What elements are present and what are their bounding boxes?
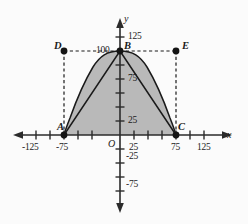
y-axis-label: y — [124, 14, 128, 24]
y-tick-label-75: 75 — [128, 74, 137, 84]
plot-svg — [0, 0, 248, 224]
point-marker-a — [61, 132, 68, 139]
y-tick-label-25: 25 — [128, 116, 137, 126]
point-label-c: C — [178, 122, 185, 133]
x-axis-arrow-left — [13, 131, 23, 139]
point-marker-b — [117, 48, 124, 55]
y-tick-label-neg25: -25 — [126, 152, 138, 162]
y-tick-label-neg75: -75 — [126, 180, 138, 190]
point-marker-c — [173, 132, 180, 139]
x-tick-label-75: 75 — [171, 143, 180, 153]
origin-label: O — [108, 139, 115, 149]
x-tick-label-125: 125 — [197, 143, 211, 153]
point-label-d: D — [54, 41, 62, 52]
point-label-b: B — [124, 41, 131, 52]
y-axis-arrow-down — [116, 203, 124, 213]
x-axis-label: x — [227, 130, 231, 140]
x-tick-label-neg125: -125 — [22, 143, 39, 153]
y-axis-arrow-up — [116, 18, 124, 28]
point-label-e: E — [182, 41, 189, 52]
y-tick-label-100: 100 — [96, 46, 110, 56]
coordinate-plane-figure: x y O -125 -75 25 75 125 125 100 75 25 -… — [0, 0, 248, 224]
x-tick-label-neg75: -75 — [56, 143, 68, 153]
point-label-a: A — [57, 122, 64, 133]
point-marker-e — [173, 48, 180, 55]
